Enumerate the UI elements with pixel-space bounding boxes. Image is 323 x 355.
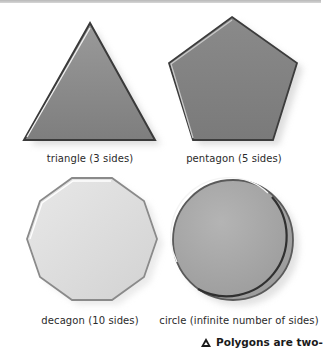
- triangle-label: triangle (3 sides): [28, 153, 152, 164]
- decagon-shape: [27, 178, 163, 305]
- pentagon-label: pentagon (5 sides): [172, 153, 296, 164]
- triangle-shape: [24, 23, 161, 145]
- decagon-label: decagon (10 sides): [28, 315, 152, 326]
- triangle-icon: [201, 338, 211, 347]
- caption-text: Polygons are two-: [216, 336, 323, 348]
- circle-label: circle (infinite number of sides): [158, 315, 320, 326]
- caption: Polygons are two-: [201, 336, 323, 348]
- circle-shape: [171, 178, 299, 306]
- pentagon-shape: [169, 17, 303, 145]
